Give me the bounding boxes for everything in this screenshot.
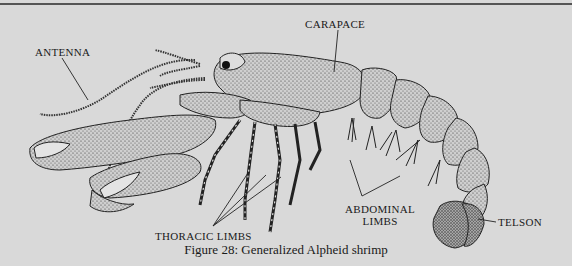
figure-caption: Figure 28: Generalized Alpheid shrimp [0,242,572,258]
label-antenna: ANTENNA [35,46,90,58]
thoracic-legs [200,120,320,232]
eye [222,61,230,69]
label-abdominal-limbs: ABDOMINAL LIMBS [333,203,427,227]
label-telson: TELSON [498,216,542,228]
claws [30,115,216,212]
label-carapace: CARAPACE [305,18,365,30]
label-abdominal-line2: LIMBS [333,215,427,227]
label-thoracic-limbs: THORACIC LIMBS [155,230,252,242]
shrimp-illustration [0,0,572,266]
abdomen-segments [360,68,489,220]
tail-fan [433,201,484,248]
label-abdominal-line1: ABDOMINAL [333,203,427,215]
